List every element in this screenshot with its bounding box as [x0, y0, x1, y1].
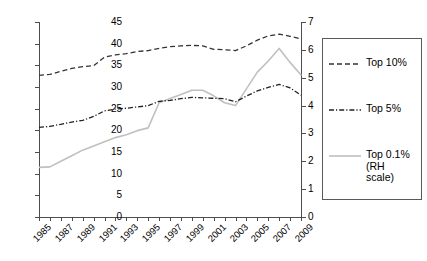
left-axis-tick-label: 25 [96, 104, 122, 114]
plot-area [39, 22, 302, 218]
legend-label-line-3: scale) [366, 171, 394, 183]
series-line-top-5-percent [39, 84, 301, 127]
chart-root: 051015202530354045 01234567 198519871989… [0, 0, 427, 261]
legend-item-top-5-percent[interactable]: Top 5% [329, 103, 401, 116]
legend-swatch-solid-line [329, 150, 361, 162]
left-axis-tick-label: 10 [96, 169, 122, 179]
right-axis-tick-label: 7 [308, 17, 328, 27]
legend-item-top-10-percent[interactable]: Top 10% [329, 57, 407, 70]
legend-swatch-dash-dot-line [329, 104, 361, 116]
left-axis-tick-label: 5 [96, 190, 122, 200]
legend-label-line-2: (RH [366, 160, 385, 172]
right-axis-tick-label: 0 [308, 212, 328, 222]
left-axis-tick-label: 35 [96, 60, 122, 70]
legend-label-line-1: Top 0.1% [366, 148, 410, 160]
left-axis-tick-label: 0 [96, 212, 122, 222]
left-axis-tick-label: 45 [96, 17, 122, 27]
legend-item-top-0-1-percent[interactable]: Top 0.1% (RH scale) [329, 149, 410, 184]
legend-label-top-0-1-percent: Top 0.1% (RH scale) [366, 149, 410, 184]
legend-swatch-dashed-line [329, 58, 361, 70]
left-axis-tick-label: 30 [96, 82, 122, 92]
series-line-top-10-percent [39, 34, 301, 75]
left-axis-tick-label: 40 [96, 39, 122, 49]
left-axis-tick-label: 15 [96, 147, 122, 157]
legend-label-top-10-percent: Top 10% [366, 57, 407, 69]
legend: Top 10% Top 5% Top 0.1% (RH scale) [322, 38, 422, 200]
left-axis-tick-label: 20 [96, 125, 122, 135]
series-line-top-0-1-percent [39, 48, 301, 167]
series-layer [39, 22, 302, 218]
legend-label-top-5-percent: Top 5% [366, 103, 401, 115]
